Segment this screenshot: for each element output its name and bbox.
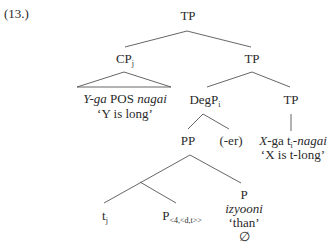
node-degp-label: DegP	[189, 92, 218, 107]
tp-lower-text: X-ga ti-nagai	[259, 134, 327, 148]
node-trace-subscript: j	[106, 216, 108, 225]
p-head-gloss: ‘than’	[228, 216, 259, 230]
node-root-tp: TP	[180, 9, 195, 23]
cp-text-part1: Y-ga	[83, 91, 107, 106]
node-cp-subscript: j	[132, 59, 134, 68]
p-head-null: ∅	[239, 230, 250, 244]
node-tp-lower: TP	[283, 93, 298, 107]
tp-text-part2: -ga t	[267, 133, 290, 148]
tp-text-part1: X	[259, 133, 267, 148]
tp-text-part4: nagai	[297, 133, 327, 148]
node-p-head: P	[240, 188, 247, 202]
node-cp-label: CP	[116, 51, 132, 66]
cp-content-text: Y-ga POS nagai	[83, 92, 167, 106]
tp-lower-gloss: ‘X is t-long’	[261, 148, 325, 162]
cp-text-part3: nagai	[137, 91, 167, 106]
node-trace: tj	[102, 209, 108, 223]
p-head-word: izyooni	[225, 202, 263, 216]
node-tp-upper: TP	[244, 52, 259, 66]
node-cp: CPj	[116, 52, 134, 66]
cp-text-part2: POS	[107, 91, 137, 106]
node-degp-subscript: i	[218, 100, 220, 109]
node-p-type-subscript: <4,<d,t>>	[169, 216, 201, 225]
node-er: (-er)	[219, 134, 242, 148]
cp-gloss: ‘Y is long’	[97, 107, 153, 121]
node-degp: DegPi	[189, 93, 220, 107]
node-pp: PP	[181, 134, 195, 148]
example-number: (13.)	[4, 7, 29, 21]
node-p-type: P<4,<d,t>>	[162, 209, 202, 223]
